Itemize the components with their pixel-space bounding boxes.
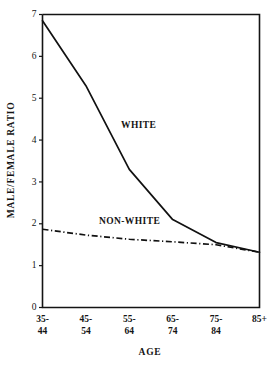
y-tick-label: 4	[32, 135, 37, 145]
series-label-non-white: NON-WHITE	[99, 216, 160, 226]
x-tick-label: 75-	[210, 314, 223, 324]
y-axis-ticks: 01234567	[32, 9, 43, 312]
x-tick-label: 85+	[252, 314, 267, 324]
y-tick-label: 7	[32, 9, 37, 19]
x-tick-label: 64	[125, 326, 135, 336]
plot-frame	[43, 15, 260, 308]
chart-figure: 01234567 WHITE NON-WHITE 35-4445-5455-64…	[0, 0, 274, 366]
x-tick-label: 44	[38, 326, 48, 336]
y-tick-label: 3	[32, 177, 37, 187]
series-label-white: WHITE	[121, 120, 156, 130]
x-tick-label: 54	[81, 326, 91, 336]
y-axis-title: MALE/FEMALE RATIO	[6, 102, 16, 219]
x-tick-label: 45-	[80, 314, 93, 324]
x-axis-title: AGE	[139, 347, 162, 357]
x-tick-label: 84	[211, 326, 221, 336]
y-tick-label: 1	[32, 260, 37, 270]
y-tick-label: 5	[32, 93, 37, 103]
x-tick-label: 35-	[36, 314, 49, 324]
y-tick-label: 2	[32, 218, 37, 228]
series-line-non-white	[43, 229, 260, 252]
x-tick-label: 55-	[123, 314, 136, 324]
x-tick-label: 65-	[166, 314, 179, 324]
chart-canvas: 01234567 WHITE NON-WHITE 35-4445-5455-64…	[0, 0, 274, 366]
y-tick-label: 0	[32, 302, 37, 312]
y-tick-label: 6	[32, 51, 37, 61]
x-tick-label: 74	[168, 326, 178, 336]
x-axis-ticks: 35-4445-5455-6465-7475-8485+	[36, 314, 267, 336]
